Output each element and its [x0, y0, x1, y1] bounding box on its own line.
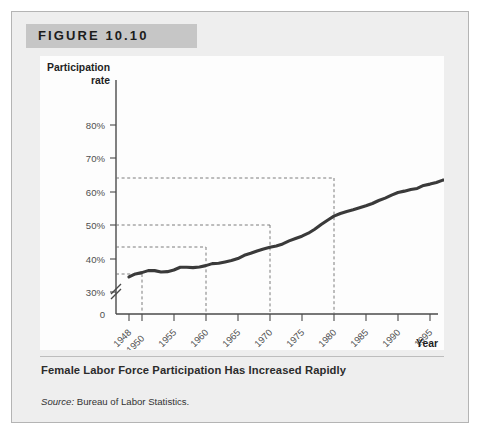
- xtick-label-1975: 1975: [284, 327, 307, 350]
- figure-panel: FIGURE 10.10 80% 70% 60% 50%: [11, 11, 469, 423]
- x-axis-title-year: Year: [416, 338, 438, 349]
- source-prefix-label: Source:: [41, 396, 74, 407]
- x-axis-ticks: [129, 314, 430, 321]
- y-axis-ticks: [110, 125, 116, 292]
- y-axis-tick-labels: 80% 70% 60% 50% 40% 30% 0: [86, 120, 106, 320]
- figure-caption-title: Female Labor Force Participation Has Inc…: [41, 364, 445, 376]
- xtick-label-1985: 1985: [348, 327, 371, 350]
- source-text-label: Bureau of Labor Statistics.: [77, 396, 190, 407]
- figure-number-label: FIGURE 10.10: [38, 28, 148, 43]
- xtick-label-1960: 1960: [188, 327, 211, 350]
- x-axis-title: Year: [416, 338, 438, 349]
- reference-guide-lines: [116, 178, 334, 314]
- ytick-label-50: 50%: [86, 220, 106, 231]
- ytick-label-60: 60%: [86, 187, 106, 198]
- xtick-label-1990: 1990: [380, 327, 403, 350]
- xtick-label-1965: 1965: [220, 327, 243, 350]
- caption-divider: [40, 356, 444, 357]
- figure-source-line: Source: Bureau of Labor Statistics.: [41, 396, 445, 407]
- ytick-label-80: 80%: [86, 120, 106, 131]
- xtick-label-1980: 1980: [316, 327, 339, 350]
- xtick-label-1955: 1955: [156, 327, 179, 350]
- xtick-label-1970: 1970: [252, 327, 275, 350]
- y-axis-title-line1: Participation: [47, 62, 110, 73]
- chart-plot-area: 80% 70% 60% 50% 40% 30% 0 Participation …: [40, 56, 444, 350]
- y-axis-title: Participation rate: [47, 62, 110, 86]
- ytick-label-70: 70%: [86, 153, 106, 164]
- ytick-label-30: 30%: [86, 287, 106, 298]
- participation-rate-line-chart: 80% 70% 60% 50% 40% 30% 0 Participation …: [40, 56, 444, 350]
- ytick-label-zero: 0: [100, 309, 105, 320]
- figure-header-band: FIGURE 10.10: [26, 24, 197, 48]
- x-axis-tick-labels: 1948 1950 1955 1960 1965 1970 1975 1980 …: [111, 327, 435, 350]
- y-axis-title-line2: rate: [91, 75, 110, 86]
- ytick-label-40: 40%: [86, 254, 106, 265]
- participation-rate-series-line: [129, 178, 444, 277]
